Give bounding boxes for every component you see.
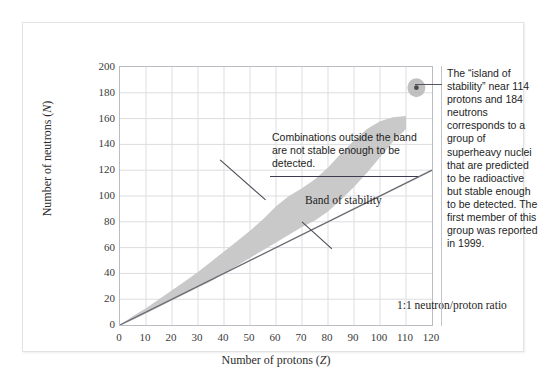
callout-outside-band: Combinations outside the band are not st… <box>272 131 426 170</box>
y-axis-tick-label: 180 <box>79 87 115 98</box>
y-axis-tick-label: 20 <box>79 293 115 304</box>
y-axis-tick-label: 100 <box>79 190 115 201</box>
island-leader-line <box>415 84 442 85</box>
y-axis-tick-labels: 020406080100120140160180200 <box>73 66 115 326</box>
y-axis-tick-label: 200 <box>79 61 115 72</box>
annotation-divider <box>441 66 442 326</box>
x-axis-tick-label: 120 <box>416 332 446 343</box>
plot-area: Combinations outside the band are not st… <box>119 66 433 326</box>
x-axis-title-suffix: ) <box>327 353 331 367</box>
y-axis-title-suffix: ) <box>40 101 54 105</box>
x-axis-title-prefix: Number of protons ( <box>221 353 319 367</box>
y-axis-tick-label: 140 <box>79 138 115 149</box>
y-axis-tick-label: 60 <box>79 242 115 253</box>
x-axis-title: Number of protons (Z) <box>119 353 433 368</box>
island-of-stability-annotation: The “island of stability” near 114 proto… <box>447 67 539 250</box>
y-axis-tick-label: 80 <box>79 216 115 227</box>
ratio-label-leader-line <box>302 222 332 249</box>
figure-frame: Number of neutrons (N) 02040608010012014… <box>22 22 524 352</box>
gridlines <box>120 67 432 325</box>
y-axis-title-variable: N <box>40 105 54 113</box>
y-axis-tick-label: 120 <box>79 164 115 175</box>
band-label-leader-line <box>220 160 266 200</box>
x-axis-tick-labels: 0102030405060708090100110120 <box>119 332 433 348</box>
x-axis-title-variable: Z <box>320 353 327 367</box>
callout-underline <box>270 176 418 177</box>
y-axis-title-prefix: Number of neutrons ( <box>40 113 54 217</box>
y-axis-tick-label: 0 <box>79 319 115 330</box>
island-of-stability-marker <box>407 78 425 97</box>
band-of-stability-label: Band of stability <box>305 194 382 206</box>
ratio-label: 1:1 neutron/proton ratio <box>397 299 507 311</box>
island-center-dot <box>414 85 419 90</box>
y-axis-tick-label: 160 <box>79 113 115 124</box>
y-axis-tick-label: 40 <box>79 267 115 278</box>
chart-figure: Number of neutrons (N) 02040608010012014… <box>0 0 549 379</box>
plot-svg <box>120 67 432 325</box>
y-axis-title: Number of neutrons (N) <box>40 89 55 229</box>
